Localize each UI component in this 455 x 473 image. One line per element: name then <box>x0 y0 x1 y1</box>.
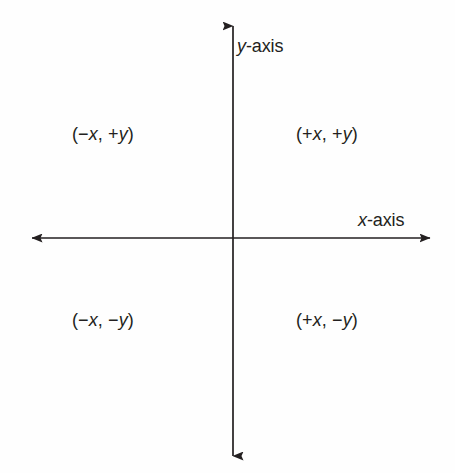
x-axis-label: x-axis <box>358 210 404 231</box>
quadrant-1-close-paren: ) <box>352 124 358 144</box>
quadrant-2-x-sign: − <box>78 124 89 144</box>
quadrant-1-x-variable: x <box>313 124 322 144</box>
quadrant-1-x-sign: + <box>302 124 313 144</box>
quadrant-1-label: (+x, +y) <box>296 124 358 145</box>
quadrant-3-x-sign: − <box>78 310 89 330</box>
quadrant-4-close-paren: ) <box>352 310 358 330</box>
quadrant-2-y-variable: y <box>119 124 128 144</box>
quadrant-1-y-variable: y <box>343 124 352 144</box>
quadrant-2-label: (−x, +y) <box>72 124 134 145</box>
y-axis-label-variable: y <box>237 36 246 56</box>
quadrant-3-label: (−x, −y) <box>72 310 134 331</box>
quadrant-1-y-sign: + <box>332 124 343 144</box>
quadrant-2-y-sign: + <box>108 124 119 144</box>
quadrant-3-y-sign: − <box>108 310 119 330</box>
quadrant-4-y-sign: − <box>332 310 343 330</box>
x-axis-label-variable: x <box>358 210 367 230</box>
quadrant-4-x-variable: x <box>313 310 322 330</box>
quadrant-4-label: (+x, −y) <box>296 310 358 331</box>
y-axis-label: y-axis <box>237 36 283 57</box>
quadrant-3-separator: , <box>98 310 108 330</box>
y-axis-label-suffix: -axis <box>246 36 284 56</box>
quadrant-4-separator: , <box>322 310 332 330</box>
quadrant-3-y-variable: y <box>119 310 128 330</box>
quadrant-3-close-paren: ) <box>128 310 134 330</box>
coordinate-plane-diagram: y-axis x-axis (−x, +y) (+x, +y) (−x, −y)… <box>0 0 455 473</box>
quadrant-2-separator: , <box>98 124 108 144</box>
quadrant-1-separator: , <box>322 124 332 144</box>
quadrant-2-close-paren: ) <box>128 124 134 144</box>
quadrant-4-y-variable: y <box>343 310 352 330</box>
quadrant-4-x-sign: + <box>302 310 313 330</box>
x-axis-label-suffix: -axis <box>367 210 405 230</box>
axes-graphic <box>0 0 455 473</box>
quadrant-2-x-variable: x <box>89 124 98 144</box>
quadrant-3-x-variable: x <box>89 310 98 330</box>
